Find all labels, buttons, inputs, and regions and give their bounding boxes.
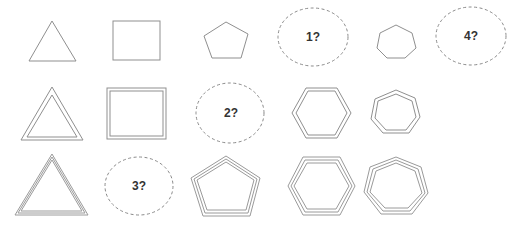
placeholder-3[interactable]: 3? [105, 157, 173, 215]
triangle-triple [15, 154, 88, 215]
heptagon-triple [364, 157, 428, 214]
placeholder-1[interactable]: 1? [278, 8, 348, 66]
row-1: 1? 4? [29, 7, 506, 66]
hexagon-triple [288, 157, 355, 215]
pentagon-single [204, 22, 248, 58]
square-double [107, 88, 166, 139]
placeholder-4-label: 4? [464, 29, 478, 43]
row-2: 2? [21, 83, 420, 143]
triangle-double [21, 87, 83, 140]
triangle-single [29, 21, 76, 61]
placeholder-1-label: 1? [306, 30, 320, 44]
square-single [113, 21, 160, 60]
placeholder-2[interactable]: 2? [196, 83, 264, 143]
heptagon-double [371, 90, 420, 133]
placeholder-4[interactable]: 4? [436, 7, 506, 65]
hexagon-double [292, 88, 351, 138]
pentagon-triple [191, 156, 260, 216]
row-3: 3? [15, 154, 428, 216]
placeholder-2-label: 2? [224, 106, 238, 120]
placeholder-3-label: 3? [132, 179, 146, 193]
heptagon-single [377, 25, 416, 58]
shape-puzzle-canvas: 1? 4? 2? [0, 0, 518, 230]
